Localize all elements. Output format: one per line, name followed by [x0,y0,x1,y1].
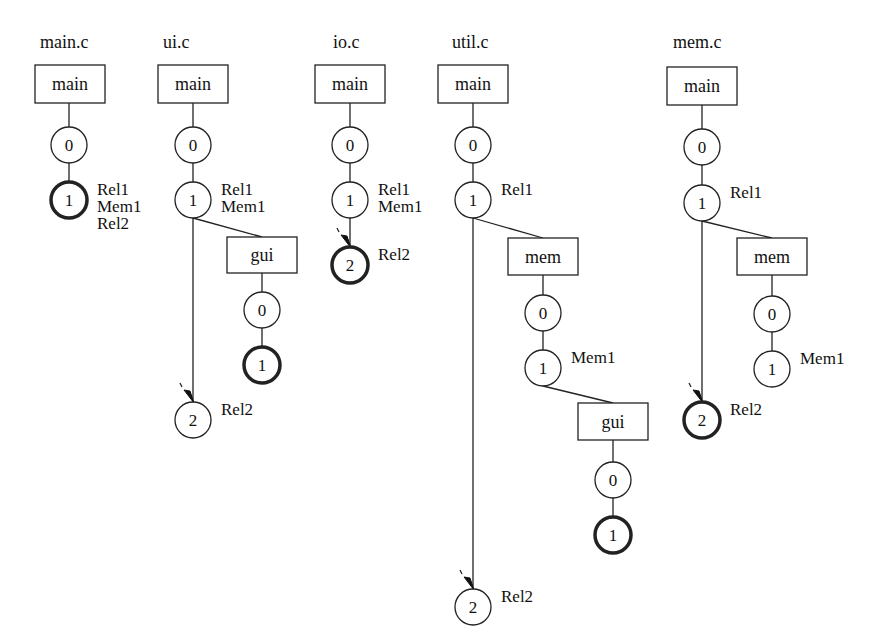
merge-tick-icon [337,228,339,232]
version-number: 2 [469,598,478,617]
branch-box-main[interactable]: main [315,65,385,103]
version-number: 0 [189,136,198,155]
version-node[interactable]: 0 [684,129,720,165]
file-tree-util-c: util.cmainmemgui01Rel101Mem1012Rel2 [438,32,648,625]
version-number: 1 [189,191,198,210]
branch-box-main[interactable]: main [35,65,105,103]
version-tag-label: Rel2 [501,587,533,606]
version-tag-label: Rel2 [730,400,762,419]
version-number: 2 [346,256,355,275]
version-tag-label: Mem1 [800,349,844,368]
branch-label: mem [525,247,561,267]
branch-box-gui[interactable]: gui [227,237,297,273]
branch-box-mem[interactable]: mem [737,238,807,275]
version-node[interactable]: 0 [51,127,87,163]
version-number: 0 [768,305,777,324]
branch-label: mem [754,247,790,267]
version-number: 1 [768,360,777,379]
branch-box-gui[interactable]: gui [578,403,648,440]
version-node[interactable]: 2Rel2 [684,400,762,438]
merge-tick-icon [460,570,462,574]
version-tree-diagram: main.cmain01Rel1Mem1Rel2ui.cmaingui01Rel… [0,0,885,640]
branch-label: main [52,74,88,94]
version-node[interactable]: 0 [525,295,561,331]
version-number: 0 [698,138,707,157]
version-number: 1 [258,356,267,375]
version-number: 1 [698,194,707,213]
version-number: 0 [609,471,618,490]
version-node[interactable]: 1Rel1Mem1 [175,180,265,218]
version-number: 0 [469,136,478,155]
version-node[interactable]: 1 [595,517,631,553]
version-node[interactable]: 0 [455,127,491,163]
branch-label: main [455,74,491,94]
file-name-label: ui.c [163,32,190,52]
version-number: 1 [346,191,355,210]
tree-edge [193,218,262,237]
file-tree-io-c: io.cmain01Rel1Mem12Rel2 [315,32,422,283]
version-node[interactable]: 1Rel1 [684,183,762,221]
version-number: 0 [346,136,355,155]
version-tag-label: Mem1 [221,197,265,216]
file-tree-ui-c: ui.cmaingui01Rel1Mem1012Rel2 [158,32,297,438]
branch-label: gui [601,412,624,432]
branch-label: main [175,74,211,94]
version-node[interactable]: 2Rel2 [175,400,253,438]
file-name-label: mem.c [673,32,721,52]
file-tree-mem-c: mem.cmainmem01Rel101Mem12Rel2 [667,32,844,438]
version-number: 1 [609,526,618,545]
version-number: 0 [258,301,267,320]
version-tag-label: Rel1 [730,183,762,202]
version-tag-label: Mem1 [378,197,422,216]
version-node[interactable]: 0 [244,292,280,328]
version-node[interactable]: 0 [595,462,631,498]
version-node[interactable]: 1Mem1 [754,349,844,387]
version-number: 2 [698,411,707,430]
version-node[interactable]: 0 [175,127,211,163]
file-name-label: main.c [40,32,88,52]
version-node[interactable]: 0 [332,127,368,163]
tree-edge [543,386,613,403]
version-node[interactable]: 2Rel2 [455,587,533,625]
version-number: 0 [539,304,548,323]
version-number: 2 [189,411,198,430]
branch-box-main[interactable]: main [158,65,228,103]
version-node[interactable]: 1Mem1 [525,348,615,386]
file-name-label: util.c [452,32,489,52]
version-number: 0 [65,136,74,155]
version-node[interactable]: 1Rel1Mem1Rel2 [51,180,141,233]
merge-tick-icon [180,383,182,387]
version-node[interactable]: 1Rel1Mem1 [332,180,422,218]
version-tag-label: Rel2 [378,245,410,264]
file-name-label: io.c [333,32,360,52]
branch-label: main [332,74,368,94]
version-number: 1 [539,359,548,378]
tree-edge [473,218,543,238]
version-tag-label: Rel2 [97,214,129,233]
version-tag-label: Rel2 [221,400,253,419]
version-tag-label: Mem1 [571,348,615,367]
version-node[interactable]: 2Rel2 [332,245,410,283]
branch-box-mem[interactable]: mem [508,238,578,275]
branch-box-main[interactable]: main [667,67,737,105]
branch-label: main [684,76,720,96]
tree-edge [702,221,772,238]
version-node[interactable]: 1Rel1 [455,180,533,218]
branch-box-main[interactable]: main [438,65,508,103]
version-node[interactable]: 1 [244,347,280,383]
version-number: 1 [65,191,74,210]
file-tree-main-c: main.cmain01Rel1Mem1Rel2 [35,32,141,233]
version-number: 1 [469,191,478,210]
branch-label: gui [250,245,273,265]
merge-tick-icon [689,383,691,387]
version-node[interactable]: 0 [754,296,790,332]
version-tag-label: Rel1 [501,180,533,199]
